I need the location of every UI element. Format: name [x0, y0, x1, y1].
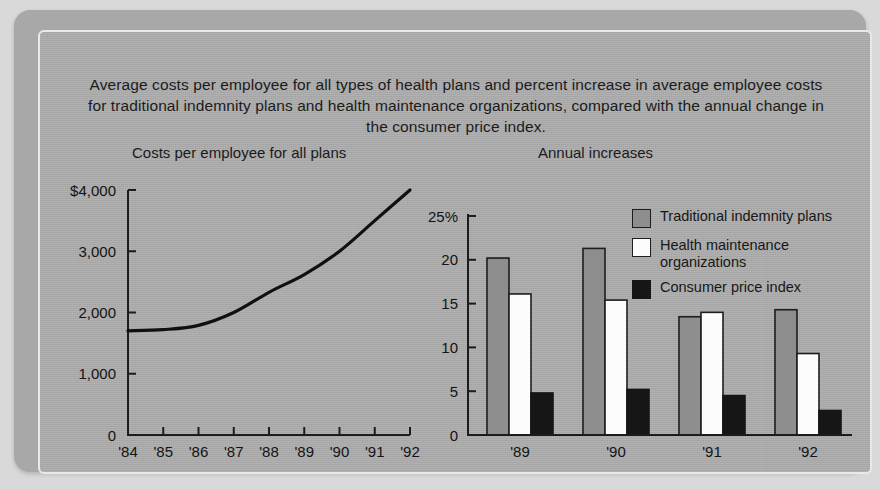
bar-chart-y-ticks: [468, 216, 476, 391]
figure-panel: Average costs per employee for all types…: [38, 30, 872, 474]
bar-hmo-90: [605, 300, 627, 435]
line-chart-y-tick-label: 1,000: [78, 365, 116, 382]
legend-label-traditional: Traditional indemnity plans: [660, 208, 832, 225]
legend-item-consumer-price-index: Consumer price index: [632, 279, 872, 299]
line-chart-x-tick-label: '92: [400, 443, 420, 460]
bar-chart-x-tick-labels: '89'90'91'92: [510, 443, 818, 460]
legend-swatch-icon-hmo: [632, 238, 651, 257]
legend-label-hmo: Health maintenance organizations: [660, 237, 872, 270]
bar-traditional-indemnity-89: [487, 258, 509, 435]
bar-chart-x-tick-label: '89: [510, 443, 530, 460]
line-chart-y-tick-label: $4,000: [70, 182, 116, 199]
line-chart-x-tick-label: '84: [118, 443, 138, 460]
bar-chart-y-tick-label: 5: [450, 383, 458, 400]
bar-chart-y-tick-label: 10: [441, 339, 458, 356]
chart-legend: Traditional indemnity plans Health maint…: [632, 208, 872, 308]
bar-chart-y-tick-label: 15: [441, 295, 458, 312]
bar-traditional-indemnity-91: [679, 317, 701, 435]
legend-item-health-maintenance-organizations: Health maintenance organizations: [632, 237, 872, 270]
bar-hmo-92: [797, 354, 819, 435]
bar-chart-x-tick-label: '91: [702, 443, 722, 460]
legend-label-cpi: Consumer price index: [660, 279, 801, 296]
line-chart-series: [128, 190, 410, 331]
bar-chart-title: Annual increases: [538, 144, 653, 161]
legend-swatch-icon-cpi: [632, 280, 651, 299]
line-chart-x-tick-label: '87: [224, 443, 244, 460]
bar-chart-y-tick-labels: 25%20151050: [428, 208, 458, 444]
bar-hmo-91: [701, 312, 723, 435]
bar-chart-x-tick-label: '92: [798, 443, 818, 460]
bar-cpi-90: [627, 389, 649, 435]
line-chart-x-tick-labels: '84'85'86'87'88'89'90'91'92: [118, 443, 420, 460]
bar-cpi-91: [723, 396, 745, 435]
line-chart-y-ticks: [128, 190, 136, 374]
line-chart-x-tick-label: '85: [153, 443, 173, 460]
legend-item-traditional-indemnity-plans: Traditional indemnity plans: [632, 208, 872, 228]
line-chart-y-tick-label: 3,000: [78, 243, 116, 260]
line-chart-y-tick-label: 0: [108, 427, 116, 444]
line-chart-x-tick-label: '90: [330, 443, 350, 460]
line-chart-x-tick-label: '88: [259, 443, 279, 460]
bar-chart-y-tick-label: 0: [450, 427, 458, 444]
bar-hmo-89: [509, 294, 531, 435]
bar-chart-y-tick-label: 25%: [428, 208, 458, 225]
line-chart-x-ticks: [128, 427, 410, 435]
bar-chart-x-tick-label: '90: [606, 443, 626, 460]
bar-cpi-89: [531, 393, 553, 435]
line-chart-x-tick-label: '89: [294, 443, 314, 460]
bar-chart-y-tick-label: 20: [441, 251, 458, 268]
bar-traditional-indemnity-90: [583, 248, 605, 435]
line-chart-y-tick-labels: $4,0003,0002,0001,0000: [70, 182, 116, 444]
figure-caption: Average costs per employee for all types…: [80, 74, 832, 137]
line-chart-y-tick-label: 2,000: [78, 304, 116, 321]
figure-panel-frame: Average costs per employee for all types…: [14, 10, 866, 472]
legend-swatch-icon-traditional: [632, 209, 651, 228]
line-chart-x-tick-label: '86: [189, 443, 209, 460]
line-chart-x-tick-label: '91: [365, 443, 385, 460]
bar-traditional-indemnity-92: [775, 310, 797, 435]
bar-cpi-92: [819, 410, 841, 435]
line-chart: $4,0003,0002,0001,0000 '84'85'86'87'88'8…: [48, 172, 428, 462]
line-chart-title: Costs per employee for all plans: [132, 144, 346, 161]
